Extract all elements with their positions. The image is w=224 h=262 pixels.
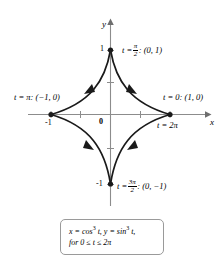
origin-label: 0 (99, 118, 103, 126)
annotation-t-3pi-over-2: t =3π2: (0, −1) (117, 179, 166, 195)
astroid-figure: y x -1 0 1 -1 t =π2: (0, 1) t = π: (−1, … (0, 0, 224, 262)
fraction-pi-over-2: π2 (133, 43, 139, 59)
equation-end-part: t, (129, 227, 135, 236)
equation-line-1: x = cos3 t, y = sin3 t, (69, 224, 157, 237)
fraction-denominator: 2 (128, 187, 137, 194)
arc-quadrant-2 (51, 50, 111, 115)
direction-arrow-upper-right (126, 84, 137, 94)
annotation-t-3pi-over-2-point: : (0, −1) (137, 181, 166, 191)
annotation-t-0: t = 0: (1, 0) (163, 93, 203, 102)
point-t-3pi-over-2 (108, 181, 113, 186)
annotation-t-pi-over-2: t =π2: (0, 1) (122, 43, 162, 59)
y-tick-label-1: 1 (100, 45, 104, 53)
annotation-t-pi-over-2-point: : (0, 1) (139, 45, 162, 55)
y-axis-label: y (102, 20, 106, 29)
arc-quadrant-1 (111, 50, 171, 115)
x-axis-label: x (210, 118, 214, 127)
x-tick-label--1: -1 (45, 119, 52, 127)
annotation-t-pi: t = π: (−1, 0) (14, 93, 60, 102)
equation-line-2: for 0 ≤ t ≤ 2π (69, 237, 157, 249)
point-t-pi (48, 112, 53, 117)
y-tick-label--1: -1 (96, 180, 103, 188)
fraction-3pi-over-2: 3π2 (128, 179, 137, 195)
direction-arrow-lower-right (127, 140, 138, 150)
fraction-denominator: 2 (133, 51, 139, 58)
annotation-t-pi-over-2-prefix: t = (122, 45, 132, 55)
annotation-t-3pi-over-2-prefix: t = (117, 181, 127, 191)
direction-arrow-upper-left (84, 84, 95, 94)
point-t-pi-over-2 (108, 47, 113, 52)
equation-box: x = cos3 t, y = sin3 t, for 0 ≤ t ≤ 2π (60, 219, 164, 255)
point-t-0 (167, 112, 172, 117)
equation-x-part: x = cos (69, 227, 93, 236)
direction-arrow-lower-left (83, 140, 94, 150)
equation-mid-part: t, y = sin (96, 227, 127, 236)
annotation-t-2pi: t = 2π (157, 121, 178, 130)
